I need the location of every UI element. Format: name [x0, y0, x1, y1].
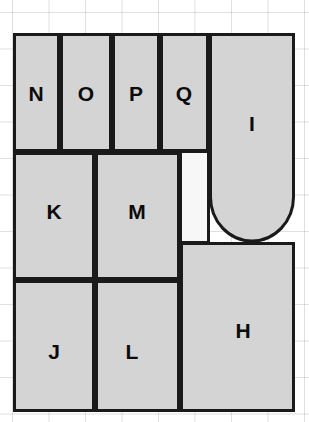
room-O[interactable]	[62, 35, 111, 151]
room-K[interactable]	[15, 154, 94, 279]
floor-plan-canvas: N O P Q I K M J L H	[0, 0, 309, 422]
void-light-well	[180, 151, 209, 243]
room-M[interactable]	[97, 154, 179, 279]
room-L[interactable]	[97, 282, 179, 411]
room-Q[interactable]	[162, 35, 208, 151]
room-H[interactable]	[182, 244, 294, 411]
voids-layer	[180, 151, 209, 243]
rooms-layer	[15, 35, 294, 411]
room-P[interactable]	[114, 35, 159, 151]
floor-plan-svg	[0, 0, 309, 422]
room-N[interactable]	[15, 35, 59, 151]
room-I[interactable]	[211, 35, 294, 242]
room-J[interactable]	[15, 282, 94, 411]
